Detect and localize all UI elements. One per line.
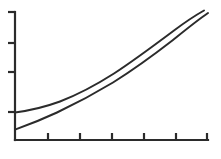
data-line-upper xyxy=(15,11,204,113)
data-series-group xyxy=(15,11,208,130)
chart-container xyxy=(0,0,221,159)
data-line-lower xyxy=(15,13,208,130)
chart-plot-area xyxy=(0,0,221,159)
